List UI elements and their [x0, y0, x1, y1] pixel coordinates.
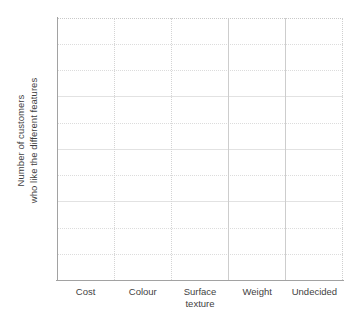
x-axis-label-weight: Weight	[229, 284, 286, 324]
chart-figure: Number of customers who like the differe…	[0, 0, 358, 331]
gridline-horizontal-9	[57, 254, 343, 255]
plot-border-top	[57, 18, 343, 19]
x-axis-label-colour: Colour	[114, 284, 171, 324]
x-axis-line	[56, 280, 344, 281]
gridline-horizontal-1	[57, 44, 343, 45]
y-axis-title: Number of customers who like the differe…	[0, 0, 56, 281]
gridline-horizontal-3	[57, 96, 343, 97]
gridline-horizontal-8	[57, 228, 343, 229]
gridline-horizontal-7	[57, 201, 343, 202]
gridline-horizontal-4	[57, 123, 343, 124]
gridline-vertical-3	[228, 18, 229, 280]
x-axis-labels: Cost Colour Surface texture Weight Undec…	[57, 284, 343, 324]
gridline-horizontal-6	[57, 175, 343, 176]
gridline-horizontal-2	[57, 70, 343, 71]
gridline-vertical-2	[171, 18, 172, 280]
gridline-vertical-4	[285, 18, 286, 280]
y-axis-title-line-2: who like the different features	[28, 78, 41, 203]
x-axis-label-undecided: Undecided	[286, 284, 343, 324]
plot-border-right	[342, 18, 343, 280]
y-axis-line	[57, 17, 58, 281]
x-axis-label-surface-texture: Surface texture	[171, 284, 228, 324]
y-axis-title-line-1: Number of customers	[16, 78, 29, 203]
gridline-vertical-1	[114, 18, 115, 280]
gridline-horizontal-5	[57, 149, 343, 150]
x-axis-label-cost: Cost	[57, 284, 114, 324]
